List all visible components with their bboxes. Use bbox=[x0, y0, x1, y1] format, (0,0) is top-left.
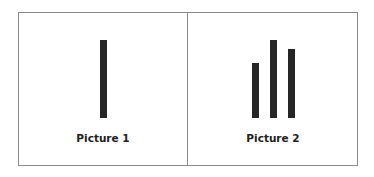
picture-1-label: Picture 1 bbox=[43, 132, 163, 144]
picture-1-bar-1 bbox=[100, 40, 107, 118]
picture-2-bar-1 bbox=[252, 63, 259, 118]
picture-2-bar-2 bbox=[270, 40, 277, 118]
picture-2-bar-3 bbox=[288, 49, 295, 118]
panel-divider bbox=[187, 12, 188, 166]
picture-2-label: Picture 2 bbox=[213, 132, 333, 144]
